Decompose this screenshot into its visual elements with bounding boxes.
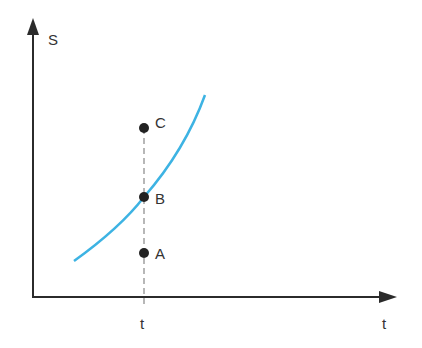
point-c — [139, 123, 149, 133]
x-axis-arrow-icon — [379, 291, 397, 303]
diagram-canvas — [0, 0, 422, 348]
point-b-label: B — [155, 191, 165, 206]
point-a-label: A — [155, 246, 165, 261]
y-axis-arrow-icon — [27, 18, 39, 35]
point-a — [139, 248, 149, 258]
x-axis-label: t — [382, 316, 386, 331]
x-tick-label: t — [140, 316, 144, 331]
point-b — [139, 192, 149, 202]
point-c-label: C — [155, 115, 166, 130]
curve — [74, 95, 205, 261]
y-axis-label: S — [48, 32, 58, 47]
